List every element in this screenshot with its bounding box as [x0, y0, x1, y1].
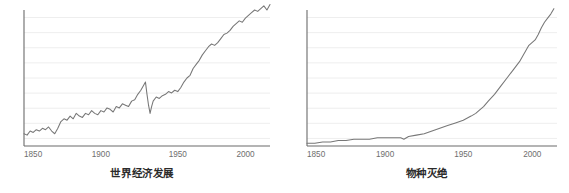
chart-caption-world-economic-development: 世界经济发展 — [0, 166, 285, 180]
chart-plot-area-right: 1850190019502000 — [285, 0, 569, 160]
chart-panel-species-extinction: 1850190019502000 物种灭绝 — [285, 0, 569, 193]
chart-panel-world-economic-development: 1850190019502000 世界经济发展 — [0, 0, 285, 193]
x-tick-label: 1850 — [24, 150, 43, 159]
chart-plot-area-left: 1850190019502000 — [0, 0, 285, 160]
line-chart-species-extinction: 1850190019502000 — [285, 0, 569, 160]
x-axis-tick-labels-right: 1850190019502000 — [307, 150, 542, 159]
figure-root: 1850190019502000 世界经济发展 1850190019502000… — [0, 0, 569, 193]
x-tick-label: 1950 — [169, 150, 188, 159]
x-tick-label: 2000 — [523, 150, 542, 159]
x-tick-label: 1950 — [454, 150, 473, 159]
data-line-world-economic-development — [24, 5, 270, 136]
gridlines-right — [307, 18, 557, 139]
gridlines-left — [24, 18, 270, 139]
x-tick-label: 1900 — [376, 150, 395, 159]
chart-caption-species-extinction: 物种灭绝 — [285, 166, 569, 180]
x-tick-label: 2000 — [236, 150, 255, 159]
x-tick-label: 1900 — [92, 150, 111, 159]
x-axis-tick-labels-left: 1850190019502000 — [24, 150, 255, 159]
x-tick-label: 1850 — [307, 150, 326, 159]
line-chart-world-economic-development: 1850190019502000 — [0, 0, 285, 160]
